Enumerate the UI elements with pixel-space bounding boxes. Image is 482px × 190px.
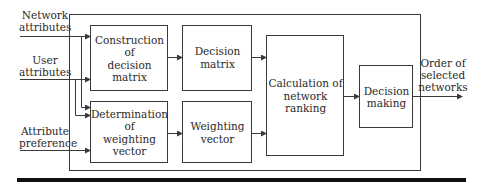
network-branch-arrow — [82, 37, 91, 108]
network-attributes-label: Network attributes — [19, 9, 71, 33]
construction-text: Construction ofdecision matrix — [91, 26, 168, 91]
decision-making-text: Decisionmaking — [360, 66, 413, 128]
output-label: Order of selected networks — [417, 57, 469, 93]
calculation-text: Calculation ofnetwork ranking — [267, 36, 344, 156]
decision-matrix-text: Decision matrix — [183, 26, 252, 89]
user-branch-arrow — [76, 80, 91, 116]
weighting-vector-text: Weightingvector — [183, 102, 252, 163]
attribute-preference-label: Attribute preference — [19, 125, 71, 149]
bottom-rule — [17, 178, 466, 182]
determination-text: Determination ofweighting vector — [91, 102, 168, 163]
user-attributes-label: User attributes — [19, 54, 71, 78]
